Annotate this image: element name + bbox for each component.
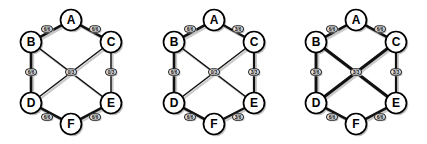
edge-label-BD: 6/6 — [171, 70, 178, 75]
node-label-F: F — [352, 117, 359, 131]
edge-label-BE: 3/3 — [353, 70, 360, 75]
node-label-D: D — [312, 96, 321, 110]
edge-label-BD: 3/6 — [313, 70, 320, 75]
edge-label-BE: 0/3 — [68, 70, 75, 75]
node-label-F: F — [67, 117, 74, 131]
node-label-B: B — [312, 35, 321, 49]
node-label-A: A — [67, 13, 76, 27]
node-label-F: F — [210, 117, 217, 131]
edge-label-AB: 6/6 — [187, 27, 194, 32]
edge-label-AC: 3/6 — [235, 27, 242, 32]
edge-label-AC: 6/6 — [377, 27, 384, 32]
graph-panel-3: ABCDEF6/66/63/63/33/36/66/6 — [285, 0, 427, 144]
edge-label-DF: 6/6 — [329, 115, 336, 120]
node-label-B: B — [170, 35, 179, 49]
node-label-B: B — [27, 35, 36, 49]
edge-label-CE: 3/3 — [393, 70, 400, 75]
edge-label-BE: 0/3 — [211, 70, 218, 75]
edge-label-CE: 3/3 — [251, 70, 258, 75]
edge-label-EF: 6/6 — [92, 115, 99, 120]
node-label-C: C — [107, 35, 116, 49]
node-label-C: C — [250, 35, 259, 49]
node-label-A: A — [352, 13, 361, 27]
graph-panel-1: ABCDEF6/66/66/60/30/36/66/6 — [0, 0, 142, 144]
edge-label-AC: 6/6 — [92, 27, 99, 32]
edge-label-AB: 6/6 — [44, 27, 51, 32]
edge-label-DF: 6/6 — [187, 115, 194, 120]
node-label-C: C — [392, 35, 401, 49]
node-label-E: E — [107, 96, 115, 110]
graph-panel-2: ABCDEF6/63/66/63/30/36/63/6 — [143, 0, 285, 144]
edge-label-BD: 6/6 — [28, 70, 35, 75]
node-label-E: E — [392, 96, 400, 110]
edge-label-EF: 3/6 — [235, 115, 242, 120]
edge-label-DF: 6/6 — [44, 115, 51, 120]
edge-label-EF: 6/6 — [377, 115, 384, 120]
node-label-D: D — [27, 96, 36, 110]
node-label-A: A — [210, 13, 219, 27]
node-label-E: E — [250, 96, 258, 110]
figure-canvas: ABCDEF6/66/66/60/30/36/66/6ABCDEF6/63/66… — [0, 0, 427, 144]
node-label-D: D — [170, 96, 179, 110]
edge-label-CE: 0/3 — [108, 70, 115, 75]
edge-label-AB: 6/6 — [329, 27, 336, 32]
